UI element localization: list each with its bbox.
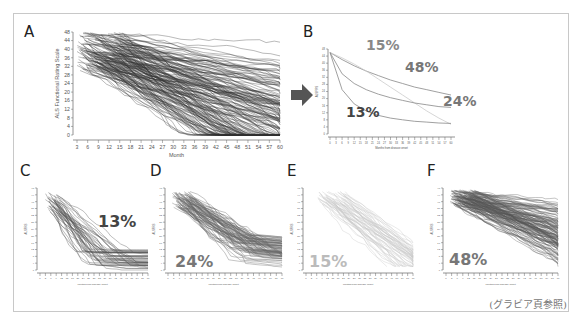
label-f-48pct: 48% bbox=[449, 250, 487, 269]
label-c-13pct: 13% bbox=[98, 212, 136, 231]
svg-text:12: 12 bbox=[467, 277, 470, 280]
svg-text:45: 45 bbox=[529, 277, 532, 280]
svg-text:36: 36 bbox=[512, 277, 515, 280]
svg-text:28: 28 bbox=[437, 221, 440, 224]
svg-text:30: 30 bbox=[501, 277, 504, 280]
svg-text:Months from disease onset: Months from disease onset bbox=[485, 283, 516, 286]
svg-text:3: 3 bbox=[451, 277, 453, 280]
figure-caption: (グラビア頁参照) bbox=[489, 296, 567, 311]
svg-text:6: 6 bbox=[457, 277, 459, 280]
svg-text:0: 0 bbox=[439, 269, 441, 272]
svg-text:8: 8 bbox=[439, 255, 441, 258]
svg-text:18: 18 bbox=[478, 277, 481, 280]
svg-text:20: 20 bbox=[437, 235, 440, 238]
svg-text:0: 0 bbox=[445, 277, 447, 280]
svg-text:24: 24 bbox=[437, 228, 440, 231]
svg-text:39: 39 bbox=[517, 277, 520, 280]
svg-text:32: 32 bbox=[437, 214, 440, 217]
svg-text:16: 16 bbox=[437, 242, 440, 245]
svg-text:27: 27 bbox=[495, 277, 498, 280]
svg-text:21: 21 bbox=[484, 277, 487, 280]
svg-text:60: 60 bbox=[557, 277, 560, 280]
svg-text:24: 24 bbox=[489, 277, 492, 280]
svg-text:12: 12 bbox=[437, 248, 440, 251]
chart-f-subgroup: 0481216202428323640444803691215182124273… bbox=[0, 0, 583, 323]
svg-text:44: 44 bbox=[437, 194, 440, 197]
svg-text:48: 48 bbox=[437, 187, 440, 190]
svg-text:ALSFRS: ALSFRS bbox=[430, 223, 434, 234]
svg-text:57: 57 bbox=[551, 277, 554, 280]
svg-text:54: 54 bbox=[545, 277, 548, 280]
svg-text:9: 9 bbox=[462, 277, 464, 280]
svg-text:42: 42 bbox=[523, 277, 526, 280]
svg-text:15: 15 bbox=[473, 277, 476, 280]
svg-text:40: 40 bbox=[437, 201, 440, 204]
label-e-15pct: 15% bbox=[309, 252, 347, 271]
svg-text:48: 48 bbox=[534, 277, 537, 280]
svg-text:36: 36 bbox=[437, 207, 440, 210]
svg-text:51: 51 bbox=[540, 277, 543, 280]
svg-text:4: 4 bbox=[439, 262, 441, 265]
svg-text:33: 33 bbox=[506, 277, 509, 280]
label-d-24pct: 24% bbox=[175, 252, 213, 271]
